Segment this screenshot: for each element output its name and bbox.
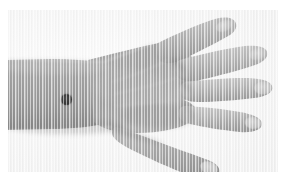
skin-lesion-marker [61,94,72,105]
photograph-plate [8,10,278,172]
ring-finger-shape [180,78,273,102]
hand-illustration [8,10,278,172]
figure-root [0,0,285,187]
